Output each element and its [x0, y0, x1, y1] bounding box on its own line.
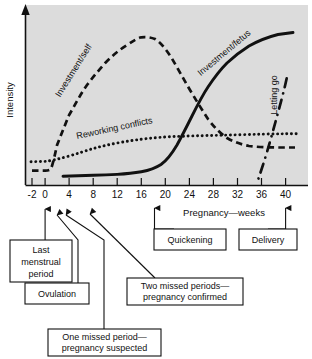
callout-text-last-menstrual-period-line1: Last	[32, 245, 50, 255]
callout-text-last-menstrual-period-line2: menstrual	[21, 257, 61, 267]
callout-text-one-missed-period-line2: pregnancy suspected	[62, 343, 148, 353]
callout-text-last-menstrual-period-line3: period	[28, 269, 53, 279]
callout-text-quickening: Quickening	[167, 235, 212, 245]
callout-text-one-missed-period-line1: One missed period—	[62, 332, 147, 342]
x-tick-label-20: 20	[160, 189, 172, 200]
callout-one-missed-period[interactable]: One missed period— pregnancy suspected	[48, 329, 161, 356]
x-tick-label-16: 16	[136, 189, 148, 200]
callout-quickening[interactable]: Quickening	[154, 229, 226, 250]
callout-two-missed-periods[interactable]: Two missed periods— pregnancy confirmed	[127, 278, 243, 305]
x-tick-label-0: 0	[42, 189, 48, 200]
x-axis-title: Pregnancy—weeks	[183, 207, 265, 218]
callout-last-menstrual-period[interactable]: Last menstrual period	[10, 240, 72, 282]
y-axis-title: Intensity	[4, 82, 15, 118]
leader-two-missed-periods	[90, 214, 155, 278]
callout-delivery[interactable]: Delivery	[239, 229, 297, 250]
x-tick-label-4: 4	[66, 189, 72, 200]
x-tick-label-36: 36	[256, 189, 268, 200]
figure-container: -2 0 4 8 12 16 20 24 28 32 36 40 Intensi…	[0, 0, 312, 359]
callout-text-two-missed-periods-line1: Two missed periods—	[141, 281, 230, 291]
callout-text-two-missed-periods-line2: pregnancy confirmed	[143, 292, 227, 302]
callout-ovulation[interactable]: Ovulation	[25, 283, 89, 304]
x-tick-label--2: -2	[28, 189, 37, 200]
x-tick-label-40: 40	[280, 189, 292, 200]
callout-text-ovulation: Ovulation	[38, 289, 76, 299]
x-tick-label-12: 12	[112, 189, 124, 200]
x-tick-label-8: 8	[90, 189, 96, 200]
x-tick-label-28: 28	[208, 189, 220, 200]
x-tick-label-32: 32	[232, 189, 244, 200]
curve-label-letting-go: Letting go	[269, 75, 279, 115]
callout-text-delivery: Delivery	[252, 235, 285, 245]
x-tick-label-24: 24	[184, 189, 196, 200]
pregnancy-intensity-chart: -2 0 4 8 12 16 20 24 28 32 36 40 Intensi…	[0, 0, 312, 359]
x-axis-tick-labels: -2 0 4 8 12 16 20 24 28 32 36 40	[28, 189, 292, 200]
